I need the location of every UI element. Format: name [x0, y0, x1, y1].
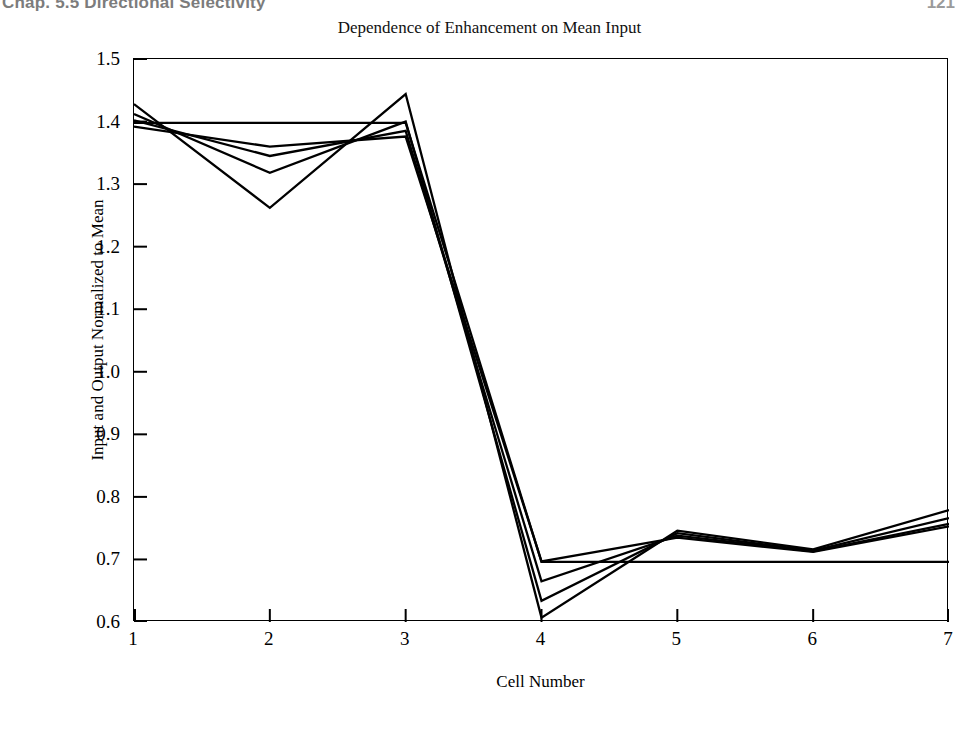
- y-tick-label: 1.5: [64, 49, 120, 68]
- series-line-output-1: [134, 127, 949, 562]
- x-tick-label: 4: [521, 628, 561, 650]
- y-tick-label: 1.1: [64, 299, 120, 318]
- y-tick-label: 0.9: [64, 424, 120, 443]
- y-tick-label: 1.3: [64, 174, 120, 193]
- x-tick-label: 5: [656, 628, 696, 650]
- x-tick-label: 6: [792, 628, 832, 650]
- series-line-output-3: [134, 114, 949, 601]
- series-line-output-4: [134, 94, 949, 618]
- y-tick-label: 1.4: [64, 112, 120, 131]
- y-tick-label: 0.6: [64, 612, 120, 631]
- x-axis-title: Cell Number: [133, 672, 948, 692]
- y-tick-label: 0.7: [64, 549, 120, 568]
- plot-area: [133, 58, 948, 621]
- chart-figure: Dependence of Enhancement on Mean Input …: [0, 0, 979, 737]
- y-axis-tick-labels: 0.60.70.80.91.01.11.21.31.41.5: [58, 58, 120, 621]
- y-tick-label: 1.2: [64, 237, 120, 256]
- series-line-output-2: [134, 120, 949, 581]
- y-tick-label: 0.8: [64, 487, 120, 506]
- x-tick-label: 3: [385, 628, 425, 650]
- x-tick-label: 2: [249, 628, 289, 650]
- y-tick-label: 1.0: [64, 362, 120, 381]
- plot-lines-svg: [134, 59, 949, 622]
- x-tick-label: 7: [928, 628, 968, 650]
- x-tick-label: 1: [113, 628, 153, 650]
- chart-title: Dependence of Enhancement on Mean Input: [0, 18, 979, 38]
- series-line-input: [134, 123, 949, 562]
- x-axis-tick-labels: 1234567: [133, 628, 948, 656]
